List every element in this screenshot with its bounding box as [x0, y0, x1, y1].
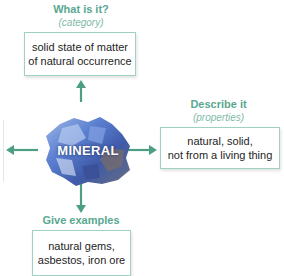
top-box-line-2: of natural occurrence — [28, 54, 131, 68]
bottom-box-line-2: asbestos, iron ore — [38, 253, 125, 267]
bottom-heading: Give examples — [21, 214, 141, 226]
bottom-box-line-1: natural gems, — [38, 239, 125, 253]
bottom-box: natural gems, asbestos, iron ore — [32, 230, 131, 276]
mineral-label: MINERAL — [42, 143, 134, 158]
right-box: natural, solid, not from a living thing — [160, 127, 280, 169]
arrow-up-icon — [75, 80, 87, 102]
left-box-edge — [0, 120, 4, 182]
top-box: solid state of matter of natural occurre… — [24, 32, 136, 76]
top-heading: What is it? — [21, 3, 141, 15]
top-subheading: (category) — [21, 17, 141, 28]
right-box-line-1: natural, solid, — [168, 134, 273, 148]
top-box-line-1: solid state of matter — [28, 40, 131, 54]
arrow-left-icon — [6, 144, 38, 156]
right-subheading: (properties) — [160, 112, 277, 123]
right-heading: Describe it — [160, 98, 277, 110]
right-box-line-2: not from a living thing — [168, 148, 273, 162]
